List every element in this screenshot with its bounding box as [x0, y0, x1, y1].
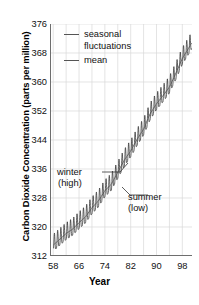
y-axis-tick-368: 368: [21, 49, 47, 58]
y-axis-tick-376: 376: [21, 20, 47, 29]
co2-concentration-chart: Carbon Dioxide Concentration (parts per …: [0, 0, 199, 305]
x-axis-tick-82: 82: [118, 261, 144, 271]
legend-label-seasonal-line2: fluctuations: [84, 41, 131, 52]
annotation-summer-line2: (low): [128, 203, 162, 214]
legend-swatch-mean-icon: [64, 60, 79, 61]
plot-svg: [50, 24, 192, 256]
seasonal-fluctuations-line: [54, 35, 192, 249]
y-axis-tick-360: 360: [21, 78, 47, 87]
x-axis-tick-90: 90: [144, 261, 170, 271]
annotation-winter: winter (high): [57, 167, 82, 189]
x-axis-tick-66: 66: [66, 261, 92, 271]
x-axis-title: Year: [0, 276, 199, 287]
plot-area: [50, 24, 192, 256]
y-axis-tick-344: 344: [21, 136, 47, 145]
annotation-winter-line2: (high): [57, 178, 82, 189]
y-axis-tick-352: 352: [21, 107, 47, 116]
y-axis-tick-312: 312: [21, 252, 47, 261]
y-axis-tick-336: 336: [21, 165, 47, 174]
horizontal-gridlines: [50, 24, 192, 256]
y-axis-tick-labels: 312320328336344352360368376: [20, 0, 47, 305]
legend-label-seasonal: seasonal: [84, 29, 121, 40]
legend-swatch-seasonal-icon: [64, 34, 79, 35]
x-axis-tick-58: 58: [40, 261, 66, 271]
annotation-summer: summer (low): [128, 192, 162, 214]
x-axis-tick-98: 98: [169, 261, 195, 271]
y-axis-tick-328: 328: [21, 194, 47, 203]
y-axis-tick-320: 320: [21, 223, 47, 232]
annotation-winter-line1: winter: [57, 167, 82, 178]
x-axis-tick-74: 74: [92, 261, 118, 271]
legend-label-mean: mean: [84, 55, 107, 66]
annotation-summer-line1: summer: [128, 192, 162, 203]
x-axis-tick-labels: 586674829098: [0, 261, 199, 275]
